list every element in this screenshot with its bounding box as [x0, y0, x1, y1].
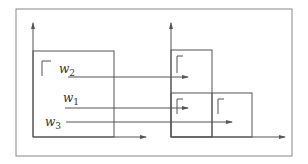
- left-panel: w2 w1 w3: [33, 23, 146, 137]
- outer-frame: [16, 9, 292, 156]
- diagram-canvas: w2 w1 w3: [0, 0, 308, 164]
- label-w3: w3: [45, 115, 61, 131]
- right-panel: [171, 23, 285, 137]
- corner-mark-icon: [42, 61, 51, 76]
- corner-mark-icon: [177, 99, 183, 114]
- corner-mark-icon: [177, 56, 183, 73]
- label-w2: w2: [59, 62, 75, 78]
- label-w1: w1: [63, 91, 79, 107]
- corner-mark-icon: [218, 99, 224, 114]
